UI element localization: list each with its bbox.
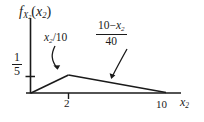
right-annotation-numerator: 10−x2 xyxy=(96,19,127,34)
pdf-triangular-figure: fX2(x2) 1 5 x2/10 10−x2 40 2 10 x2 xyxy=(0,0,204,122)
leader-arrow-right xyxy=(112,49,127,77)
x-axis-label-sub: 2 xyxy=(185,101,189,110)
right-annotation-ten: 10 xyxy=(98,19,110,31)
right-annotation-var-sub: 2 xyxy=(121,25,125,33)
density-rising-segment xyxy=(31,75,69,93)
x-axis-label: x2 xyxy=(180,96,189,109)
leader-arrowhead-left xyxy=(53,65,60,70)
density-falling-segment xyxy=(69,75,167,93)
y-axis-title: fX2(x2) xyxy=(19,5,51,20)
y-tick-numerator: 1 xyxy=(12,51,22,64)
leader-arrowhead-right xyxy=(110,73,116,79)
leader-arrow-left xyxy=(52,46,57,68)
left-annotation-rest: /10 xyxy=(53,31,68,43)
annotation-left-segment: x2/10 xyxy=(44,32,67,45)
y-tick-label-one-fifth: 1 5 xyxy=(12,51,22,77)
y-tick-denominator: 5 xyxy=(12,64,22,78)
x-tick-label-2: 2 xyxy=(64,98,70,109)
right-annotation-denominator: 40 xyxy=(96,34,127,48)
axis-title-paren-close: ) xyxy=(47,4,52,19)
annotation-right-segment: 10−x2 40 xyxy=(96,19,127,47)
x-tick-label-10: 10 xyxy=(156,99,167,110)
